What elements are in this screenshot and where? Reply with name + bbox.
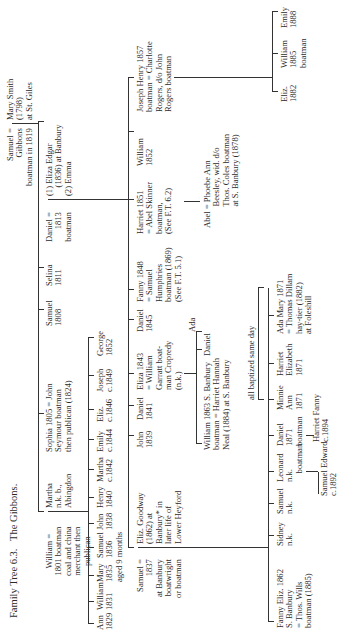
fanny-eliz-1862: Fanny Eliz. 1862 S. Banbury = Thos. Will… xyxy=(276,569,314,628)
daniel-1845: Daniel 1845 xyxy=(136,309,155,332)
mary-smith: Mary Smith (1798) at St. Giles xyxy=(6,79,34,120)
family-tree-page: Family Tree 6.3. The Gibbons. Samuel = G… xyxy=(0,0,355,632)
leonard: Leonard n.k. boatman xyxy=(276,444,304,482)
samuel-edward-c1892: Samuel Edward c.1892 xyxy=(320,441,339,496)
william-1831: William 1831 xyxy=(96,582,115,610)
gen3-daniel-sibling-bar xyxy=(128,78,129,548)
samuel-1837: Samuel = 1837 at Banbury boatwright or b… xyxy=(136,559,183,598)
william-1885: William 1885 boatman xyxy=(280,38,308,68)
daniel-eliza-child: Daniel xyxy=(203,333,212,356)
emily-1888: Emily 1888 xyxy=(280,7,299,28)
samuel-1808: Samuel 1808 xyxy=(45,300,64,326)
selina-1811: Selina 1811 xyxy=(45,265,64,286)
daniel-1871: Daniel 1871 boatman xyxy=(276,416,304,446)
fanny-1848: Fanny 1848 = Samuel Humphries boatman (1… xyxy=(136,247,183,302)
harriet-elizabeth-1871: Harriet Elizabeth 1871 xyxy=(276,344,304,376)
marriage-line xyxy=(48,511,88,512)
ada-mary-1871: Ada Mary 1871 = Thomas Dillam hay-tier (… xyxy=(276,273,314,334)
marriage-line xyxy=(12,123,38,124)
baptized-note: all baptized same day xyxy=(247,326,256,400)
gen2-sibling-bar xyxy=(38,122,39,512)
samuel-gibbons-sr: Samuel = Gibbons boatman in 1819 xyxy=(6,128,34,186)
joseph-c1849: Joseph c.1849 xyxy=(96,369,115,392)
ada-eliza-child: Ada xyxy=(188,318,197,332)
gen3-william-sibling-bar xyxy=(88,338,89,624)
william-1801: William = 1801 boatman coal and china me… xyxy=(45,526,92,576)
eliz-1882: Eliz. 1882 xyxy=(280,85,299,102)
william-1852: William 1852 xyxy=(136,138,155,166)
sophia-1805: Sophia 1805 = John Seymour boatman then … xyxy=(45,380,73,452)
eliz-goodway: Eliz. Goodway (1862) at Banbury* in late… xyxy=(136,491,183,544)
henry-1840: Henry 1840 xyxy=(96,487,115,508)
abel-skinner: Abel = Phoebe Ann Beesley, wid. d/o Thos… xyxy=(203,134,241,228)
george-1852: George 1852 xyxy=(96,331,115,356)
sidney: Sidney n.k. xyxy=(276,522,295,546)
figure-caption: Family Tree 6.3. The Gibbons. xyxy=(8,484,20,618)
martha-abingdon: Martha n.k. b., Abingdon xyxy=(45,474,73,508)
eliza-edgar-emma: (1) Eliza Edgar (1836) at Banbury (2) Em… xyxy=(45,124,73,196)
baptized-bracket xyxy=(258,288,259,400)
marriage-line xyxy=(138,547,184,548)
gen4-samuel-sibling-bar xyxy=(268,288,269,622)
harriet-fanny-c1894: Harriet Fanny c.1894 xyxy=(312,394,331,442)
minnie-ann-1871: Minnie Ann 1871 xyxy=(276,385,304,410)
samuel-nk: Samuel n.k. xyxy=(276,488,295,514)
daniel-1813: Daniel = 1813 boatman xyxy=(45,212,73,242)
marriage-line xyxy=(48,199,98,200)
martha-c1842: Martha c.1842 xyxy=(96,457,115,482)
john-1839: John 1839 xyxy=(136,431,155,448)
harriet-1851: Harriet 1851 = Abel Skinner boatman, (Se… xyxy=(136,182,174,234)
eliza-1843: Eliza 1843 = William Garratt boat- man C… xyxy=(136,341,183,390)
samuel-1836: Samuel 1836 xyxy=(96,532,115,558)
ann-1829: Ann 1829 xyxy=(96,613,115,630)
emily-c1844: Emily c.1844 xyxy=(96,429,115,452)
eliz-c1846: Eliz. c.1846 xyxy=(96,399,115,422)
john-1838: John 1838 xyxy=(96,513,115,530)
william-1863: William 1863 S. Banbury boatman = Harrie… xyxy=(203,358,231,450)
joseph-henry-1857: Joseph Henry 1857 boatman = Charlotte Ro… xyxy=(136,41,174,112)
daniel-1841: Daniel 1841 xyxy=(136,397,155,420)
